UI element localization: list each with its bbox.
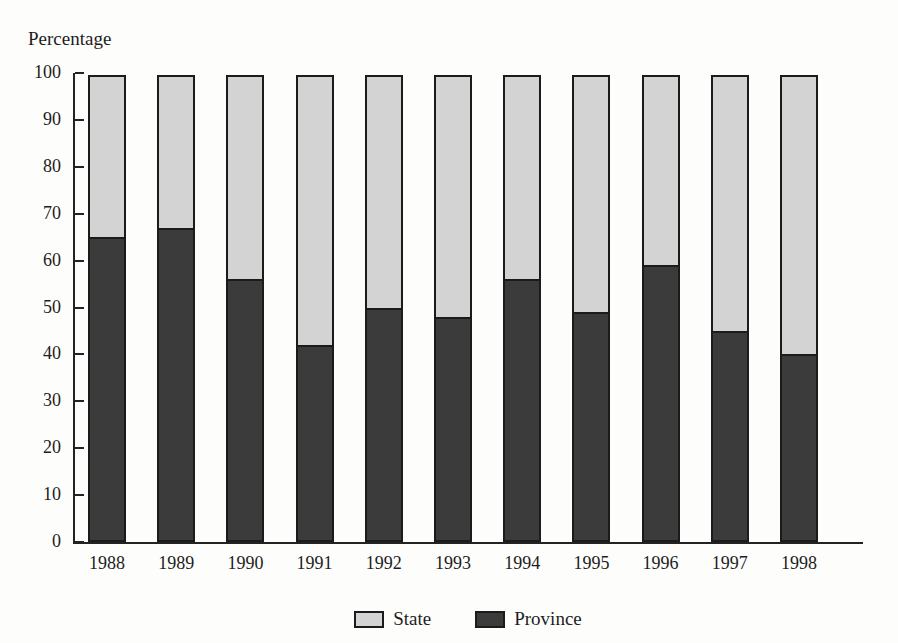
stacked-bar[interactable]: [365, 73, 403, 542]
x-tick-label: 1994: [483, 552, 561, 574]
y-axis-title: Percentage: [28, 28, 111, 50]
bar-segment-state[interactable]: [296, 75, 334, 347]
chart-legend: StateProvince: [73, 609, 863, 629]
x-tick-label: 1998: [760, 552, 838, 574]
x-tick-label: 1989: [137, 552, 215, 574]
bar-segment-state[interactable]: [157, 75, 195, 230]
x-tick-label: 1992: [345, 552, 423, 574]
bar-segment-state[interactable]: [642, 75, 680, 267]
legend-item-state[interactable]: State: [354, 609, 431, 629]
y-tick-mark: [75, 307, 84, 309]
x-axis-line: [73, 542, 863, 544]
x-tick-label: 1996: [622, 552, 700, 574]
stacked-bar[interactable]: [642, 73, 680, 542]
y-tick-label: 40: [43, 343, 61, 363]
y-tick-mark: [75, 447, 84, 449]
y-tick-mark: [75, 119, 84, 121]
bar-segment-state[interactable]: [365, 75, 403, 310]
x-tick-label: 1995: [552, 552, 630, 574]
legend-label: State: [393, 609, 431, 629]
y-tick-label: 0: [52, 531, 61, 551]
bar-segment-province[interactable]: [434, 317, 472, 542]
plot-area: 0102030405060708090100 19881989199019911…: [73, 73, 863, 542]
legend-item-province[interactable]: Province: [475, 609, 582, 629]
stacked-bar[interactable]: [226, 73, 264, 542]
y-tick-mark: [75, 166, 84, 168]
bar-segment-province[interactable]: [226, 279, 264, 542]
bar-segment-province[interactable]: [572, 312, 610, 542]
y-tick-label: 10: [43, 484, 61, 504]
y-tick-mark: [75, 353, 84, 355]
x-tick-label: 1990: [206, 552, 284, 574]
stacked-bar[interactable]: [711, 73, 749, 542]
bar-segment-state[interactable]: [503, 75, 541, 281]
y-tick-mark: [75, 541, 84, 543]
y-tick-label: 90: [43, 109, 61, 129]
y-tick-label: 60: [43, 250, 61, 270]
bar-segment-state[interactable]: [711, 75, 749, 333]
stacked-bar[interactable]: [780, 73, 818, 542]
x-tick-label: 1988: [68, 552, 146, 574]
stacked-bar[interactable]: [88, 73, 126, 542]
y-tick-mark: [75, 72, 84, 74]
y-tick-mark: [75, 213, 84, 215]
bar-segment-province[interactable]: [88, 237, 126, 542]
bar-segment-province[interactable]: [503, 279, 541, 542]
bar-segment-province[interactable]: [642, 265, 680, 542]
bar-segment-province[interactable]: [157, 228, 195, 542]
y-tick-label: 100: [34, 62, 61, 82]
y-tick-label: 30: [43, 390, 61, 410]
y-tick-mark: [75, 400, 84, 402]
stacked-bar[interactable]: [296, 73, 334, 542]
bar-segment-state[interactable]: [88, 75, 126, 239]
chart-figure: Percentage 0102030405060708090100 198819…: [0, 0, 898, 643]
x-tick-label: 1997: [691, 552, 769, 574]
scan-top-artifact: [120, 0, 680, 6]
stacked-bar[interactable]: [503, 73, 541, 542]
y-tick-label: 70: [43, 203, 61, 223]
y-tick-mark: [75, 260, 84, 262]
y-tick-label: 20: [43, 437, 61, 457]
x-tick-label: 1991: [276, 552, 354, 574]
bar-segment-state[interactable]: [572, 75, 610, 314]
legend-label: Province: [514, 609, 582, 629]
stacked-bar[interactable]: [572, 73, 610, 542]
bar-segment-state[interactable]: [226, 75, 264, 281]
bar-segment-province[interactable]: [780, 354, 818, 542]
stacked-bar[interactable]: [434, 73, 472, 542]
bar-segment-state[interactable]: [780, 75, 818, 356]
legend-swatch-state: [354, 611, 384, 628]
legend-swatch-province: [475, 611, 505, 628]
bar-segment-province[interactable]: [296, 345, 334, 542]
bar-segment-province[interactable]: [711, 331, 749, 542]
stacked-bar[interactable]: [157, 73, 195, 542]
bar-segment-province[interactable]: [365, 308, 403, 543]
y-tick-mark: [75, 494, 84, 496]
y-tick-label: 50: [43, 297, 61, 317]
x-tick-label: 1993: [414, 552, 492, 574]
y-tick-label: 80: [43, 156, 61, 176]
bar-segment-state[interactable]: [434, 75, 472, 319]
